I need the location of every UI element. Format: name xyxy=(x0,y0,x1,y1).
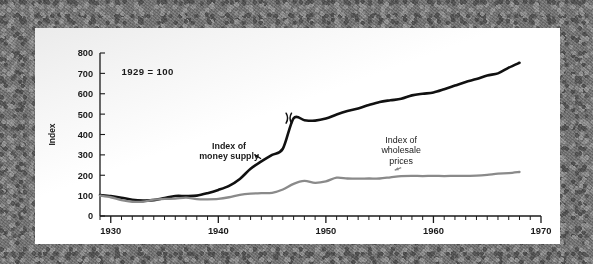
break-mark xyxy=(286,113,291,123)
annotation-line: Index of xyxy=(385,135,417,145)
y-tick-label: 0 xyxy=(88,211,93,221)
annotation-arrow-head xyxy=(395,167,399,170)
wholesale-prices-label: Index ofwholesaleprices xyxy=(380,135,421,171)
x-tick-label: 1950 xyxy=(315,225,336,236)
y-tick-label: 300 xyxy=(78,150,93,160)
break-mark-layer xyxy=(286,113,291,123)
x-tick-label: 1930 xyxy=(100,225,121,236)
x-tick-label: 1970 xyxy=(531,225,552,236)
screenshot-root: 0100200300400500600700800 19301940195019… xyxy=(0,0,593,264)
line-chart: 0100200300400500600700800 19301940195019… xyxy=(35,28,560,244)
series-line xyxy=(100,63,519,201)
annotation-line: Index of xyxy=(212,141,246,151)
annotation-line: prices xyxy=(389,156,413,166)
y-axis-label: Index xyxy=(47,123,57,145)
x-tick-label: 1940 xyxy=(208,225,229,236)
series-layer xyxy=(100,63,519,202)
x-tick-label: 1960 xyxy=(423,225,444,236)
y-tick-label: 500 xyxy=(78,110,93,120)
annotation-layer: Index ofmoney supplyIndex ofwholesalepri… xyxy=(199,135,421,171)
y-tick-label: 600 xyxy=(78,89,93,99)
y-tick-label: 400 xyxy=(78,130,93,140)
figure-card: 0100200300400500600700800 19301940195019… xyxy=(35,28,560,244)
y-tick-label: 100 xyxy=(78,191,93,201)
y-tick-label: 700 xyxy=(78,69,93,79)
annotation-line: wholesale xyxy=(380,145,421,155)
y-tick-label: 800 xyxy=(78,48,93,58)
y-tick-label: 200 xyxy=(78,171,93,181)
annotation-line: money supply xyxy=(199,151,259,161)
x-axis: 19301940195019601970 xyxy=(100,216,551,236)
money-supply-label: Index ofmoney supply xyxy=(199,141,261,162)
index-base-note: 1929 = 100 xyxy=(122,66,174,77)
